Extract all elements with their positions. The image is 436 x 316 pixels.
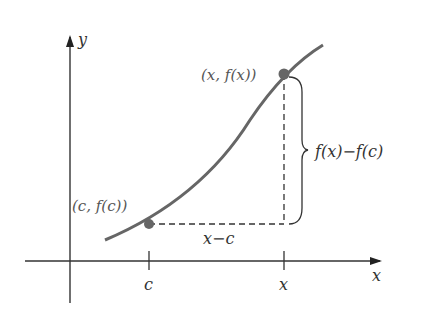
- horizontal-segment-label: x−c: [203, 229, 234, 248]
- tick-x-label: x: [279, 275, 288, 294]
- secant-diagram: y x c x f(x)−f(c) x−c (c, f(c)) (x, f(x)…: [0, 0, 436, 316]
- x-axis-label: x: [372, 266, 381, 285]
- point-c-label: (c, f(c)): [72, 197, 127, 215]
- diagram-canvas: y x c x f(x)−f(c) x−c (c, f(c)) (x, f(x)…: [0, 0, 436, 316]
- brace: [289, 77, 308, 224]
- tick-c-label: c: [144, 275, 153, 294]
- point-x: [279, 69, 290, 80]
- brace-label: f(x)−f(c): [314, 142, 383, 161]
- y-axis-label: y: [77, 30, 88, 49]
- point-x-label: (x, f(x)): [201, 66, 257, 84]
- point-c: [144, 219, 154, 229]
